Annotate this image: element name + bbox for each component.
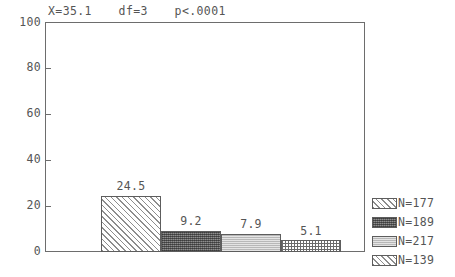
legend-item-label: N=177 <box>398 198 434 209</box>
bar-4[interactable] <box>281 240 341 252</box>
y-tick-label: 80 <box>0 62 41 73</box>
legend-item-2[interactable]: N=189 <box>372 215 452 230</box>
bar-3-value-label: 7.9 <box>221 218 281 230</box>
bar-2[interactable] <box>161 231 221 252</box>
legend-item-3[interactable]: N=217 <box>372 234 452 249</box>
bar-4-value-label: 5.1 <box>281 225 341 237</box>
legend-swatch-icon <box>372 255 397 266</box>
bar-2-value-label: 9.2 <box>161 215 221 227</box>
legend-swatch-icon <box>372 236 397 247</box>
legend-swatch-icon <box>372 217 397 228</box>
degrees-of-freedom-value: df=3 <box>119 4 148 18</box>
bar-3[interactable] <box>221 234 281 252</box>
y-tick-label: 40 <box>0 154 41 165</box>
legend-item-label: N=139 <box>398 255 434 266</box>
y-tick-label: 100 <box>0 17 41 28</box>
legend-item-label: N=217 <box>398 236 434 247</box>
bar-chart: X=35.1 df=3 p<.0001 100 80 60 40 20 0 24… <box>0 0 455 277</box>
legend: N=177 N=189 N=217 N=139 <box>372 196 452 272</box>
bars-container: 24.5 9.2 7.9 5.1 <box>45 22 365 252</box>
bar-1[interactable] <box>101 196 161 252</box>
legend-item-label: N=189 <box>398 217 434 228</box>
y-axis: 100 80 60 40 20 0 <box>0 0 41 277</box>
y-tick-label: 60 <box>0 108 41 119</box>
y-tick-label: 20 <box>0 200 41 211</box>
legend-item-1[interactable]: N=177 <box>372 196 452 211</box>
legend-swatch-icon <box>372 198 397 209</box>
legend-item-4[interactable]: N=139 <box>372 253 452 268</box>
bar-1-value-label: 24.5 <box>101 180 161 192</box>
chi-square-value: X=35.1 <box>48 4 92 18</box>
statistics-annotation: X=35.1 df=3 p<.0001 <box>48 4 226 18</box>
y-tick-label: 0 <box>0 246 41 257</box>
p-value: p<.0001 <box>175 4 226 18</box>
